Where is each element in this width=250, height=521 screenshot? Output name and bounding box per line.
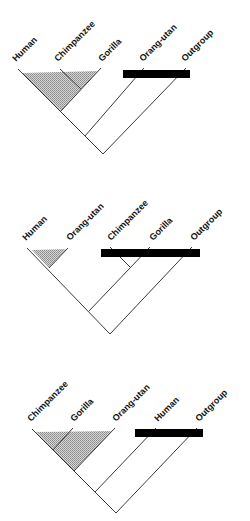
taxon-label: Orang-utan [110, 382, 151, 423]
tree-2: Human Orang-utan Chimpanzee Gorilla Outg… [20, 198, 224, 334]
character-bar [123, 70, 190, 78]
taxon-label: Human [10, 35, 39, 64]
shaded-clade-chimp-gorilla-orang-utan [36, 431, 112, 471]
cladogram-figure: Human Chimpanzee Gorilla Orang-utan Outg… [0, 0, 250, 521]
branch-outgroup [103, 68, 186, 154]
shaded-clade-human-chimp-gorilla [22, 71, 98, 111]
taxon-label: Orang-utan [64, 201, 105, 242]
taxon-label: Chimpanzee [105, 198, 150, 243]
taxon-label: Human [20, 214, 49, 243]
taxon-label: Gorilla [96, 35, 124, 63]
taxon-label: Outgroup [179, 27, 215, 63]
taxon-label: Gorilla [68, 395, 96, 423]
taxon-label: Human [152, 395, 181, 424]
branch-orang-utan [85, 68, 144, 136]
tree-1: Human Chimpanzee Gorilla Orang-utan Outg… [10, 19, 215, 154]
branch-outgroup [110, 247, 192, 334]
taxon-label: Chimpanzee [52, 19, 97, 64]
character-bar [101, 249, 200, 257]
taxon-label: Orang-utan [137, 22, 178, 63]
branch-human [27, 248, 110, 334]
taxon-label: Outgroup [193, 387, 229, 423]
taxon-label: Chimpanzee [25, 379, 70, 424]
character-bar [135, 429, 203, 437]
taxon-label: Gorilla [147, 214, 175, 242]
taxon-label: Outgroup [188, 206, 224, 242]
tree-3: Chimpanzee Gorilla Orang-utan Human Outg… [25, 379, 229, 513]
branch-outgroup [116, 428, 197, 513]
